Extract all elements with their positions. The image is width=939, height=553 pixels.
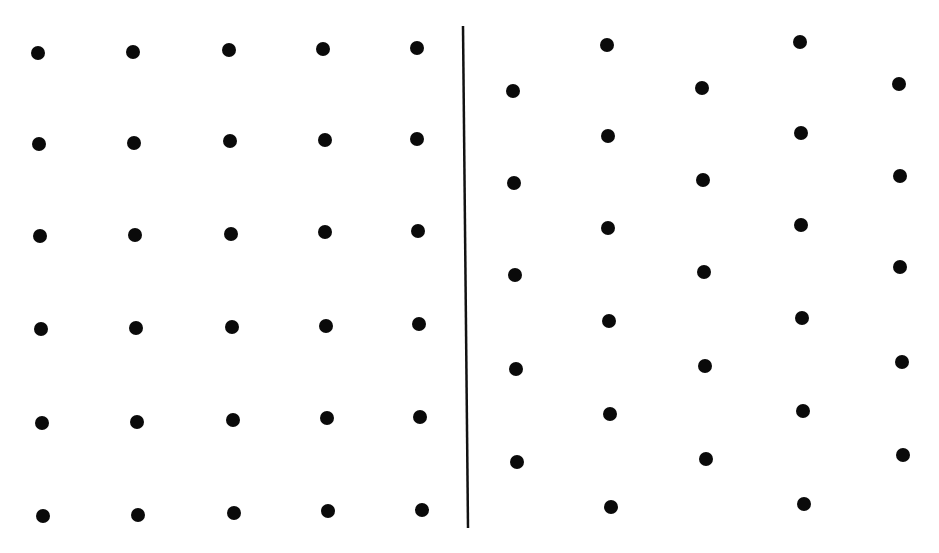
lattice-dot <box>892 77 906 91</box>
lattice-dot <box>602 314 616 328</box>
dot-lattice-figure <box>0 0 939 553</box>
lattice-dot <box>225 320 239 334</box>
lattice-dot <box>410 132 424 146</box>
lattice-dot <box>699 452 713 466</box>
lattice-dot <box>696 173 710 187</box>
lattice-dot <box>318 225 332 239</box>
lattice-dot <box>316 42 330 56</box>
lattice-dot <box>507 176 521 190</box>
lattice-dot <box>318 133 332 147</box>
lattice-dot <box>793 35 807 49</box>
lattice-dot <box>35 416 49 430</box>
lattice-dot <box>129 321 143 335</box>
lattice-dot <box>698 359 712 373</box>
lattice-dot <box>603 407 617 421</box>
lattice-dot <box>410 41 424 55</box>
lattice-dot <box>222 43 236 57</box>
lattice-dot <box>896 448 910 462</box>
lattice-dot <box>601 129 615 143</box>
lattice-dot <box>223 134 237 148</box>
lattice-dot <box>893 169 907 183</box>
lattice-dot <box>600 38 614 52</box>
lattice-dot <box>695 81 709 95</box>
lattice-dot <box>33 229 47 243</box>
lattice-dot <box>508 268 522 282</box>
lattice-dot <box>412 317 426 331</box>
lattice-dot <box>126 45 140 59</box>
lattice-dot <box>794 126 808 140</box>
lattice-dot <box>31 46 45 60</box>
lattice-dot <box>795 311 809 325</box>
lattice-dot <box>320 411 334 425</box>
lattice-dot <box>415 503 429 517</box>
figure-svg <box>0 0 939 553</box>
square-lattice-panel <box>31 41 429 523</box>
lattice-dot <box>604 500 618 514</box>
lattice-dot <box>321 504 335 518</box>
lattice-dot <box>893 260 907 274</box>
lattice-dot <box>510 455 524 469</box>
lattice-dot <box>224 227 238 241</box>
lattice-dot <box>127 136 141 150</box>
lattice-dot <box>130 415 144 429</box>
lattice-dot <box>794 218 808 232</box>
lattice-dot <box>509 362 523 376</box>
lattice-dot <box>36 509 50 523</box>
lattice-dot <box>797 497 811 511</box>
lattice-dot <box>796 404 810 418</box>
panel-divider <box>463 26 468 528</box>
lattice-dot <box>601 221 615 235</box>
lattice-dot <box>131 508 145 522</box>
lattice-dot <box>411 224 425 238</box>
lattice-dot <box>895 355 909 369</box>
lattice-dot <box>413 410 427 424</box>
lattice-dot <box>227 506 241 520</box>
lattice-dot <box>319 319 333 333</box>
lattice-dot <box>697 265 711 279</box>
lattice-dot <box>32 137 46 151</box>
lattice-dot <box>34 322 48 336</box>
lattice-dot <box>226 413 240 427</box>
hexagonal-lattice-panel <box>506 35 910 514</box>
lattice-dot <box>128 228 142 242</box>
lattice-dot <box>506 84 520 98</box>
